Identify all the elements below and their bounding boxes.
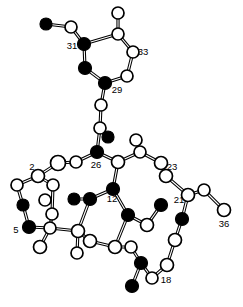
atom-open bbox=[121, 70, 133, 82]
atom-open bbox=[130, 134, 142, 146]
atom-filled bbox=[176, 213, 189, 226]
atom-filled bbox=[23, 221, 36, 234]
atom-open bbox=[95, 99, 107, 111]
molecule-canvas: 31332926251223213618 bbox=[0, 0, 243, 307]
atom-number-label: 2 bbox=[29, 161, 34, 172]
atom-open bbox=[84, 235, 97, 248]
atom-filled bbox=[122, 209, 135, 222]
atom-open bbox=[169, 234, 182, 247]
atom-open bbox=[146, 272, 158, 284]
atom-filled bbox=[135, 257, 148, 270]
atom-open bbox=[47, 179, 59, 191]
atom-open bbox=[39, 194, 51, 206]
atoms-layer bbox=[11, 7, 231, 293]
atom-open bbox=[65, 21, 77, 33]
atom-open bbox=[141, 219, 154, 232]
atom-filled bbox=[78, 38, 91, 51]
atom-open bbox=[161, 259, 174, 272]
atom-open bbox=[155, 157, 168, 170]
atom-filled bbox=[99, 77, 112, 90]
atom-number-label: 29 bbox=[112, 84, 123, 95]
atom-open bbox=[71, 247, 83, 259]
atom-number-label: 36 bbox=[219, 218, 230, 229]
atom-open bbox=[46, 208, 58, 220]
atom-open bbox=[70, 156, 82, 168]
atom-open bbox=[218, 204, 231, 217]
atom-number-label: 23 bbox=[167, 161, 178, 172]
molecular-structure-figure: 31332926251223213618 bbox=[0, 0, 243, 307]
atom-open bbox=[112, 28, 124, 40]
atom-open bbox=[134, 146, 146, 158]
atom-filled bbox=[79, 62, 92, 75]
atom-filled bbox=[126, 280, 139, 293]
atom-open bbox=[112, 156, 125, 169]
atom-open bbox=[125, 241, 137, 253]
atom-number-label: 18 bbox=[161, 274, 172, 285]
atom-number-label: 21 bbox=[174, 194, 185, 205]
atom-open bbox=[34, 241, 47, 254]
atom-filled bbox=[91, 146, 104, 159]
atom-open bbox=[109, 241, 122, 254]
atom-number-label: 33 bbox=[138, 46, 149, 57]
atom-open bbox=[51, 156, 66, 171]
atom-filled bbox=[68, 193, 80, 205]
atom-open bbox=[112, 7, 124, 19]
atom-filled bbox=[17, 199, 29, 211]
atom-number-label: 26 bbox=[91, 159, 102, 170]
atom-number-label: 12 bbox=[107, 193, 118, 204]
atom-filled bbox=[102, 131, 114, 143]
atom-open bbox=[44, 222, 56, 234]
atom-number-label: 31 bbox=[67, 40, 78, 51]
atom-open bbox=[11, 179, 23, 191]
atom-filled bbox=[155, 199, 168, 212]
atom-number-label: 5 bbox=[13, 224, 18, 235]
atom-open bbox=[72, 225, 85, 238]
atom-open bbox=[198, 184, 210, 196]
atom-filled bbox=[84, 193, 97, 206]
atom-filled bbox=[40, 18, 52, 30]
